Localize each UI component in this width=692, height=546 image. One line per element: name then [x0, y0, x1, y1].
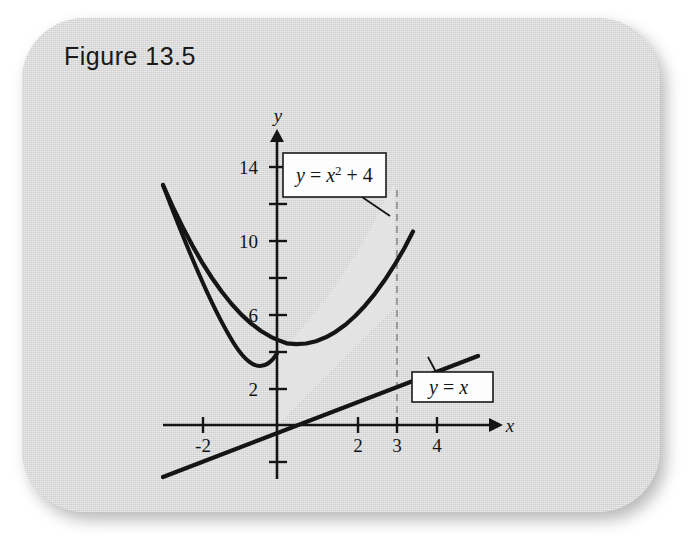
parabola-label-y: y: [294, 164, 305, 187]
y-tick-label-14: 14: [239, 157, 259, 178]
x-tick-label-3: 3: [392, 435, 402, 456]
figure-page: Figure 13.5: [0, 0, 692, 546]
parabola-curve: [163, 185, 277, 366]
line-label-box: y = x: [412, 372, 493, 402]
y-tick-label-10: 10: [239, 231, 258, 252]
x-axis-name: x: [505, 415, 515, 436]
parabola-label-eq: =: [305, 164, 326, 186]
y-axis-name: y: [272, 105, 283, 126]
x-tick-label--2: -2: [195, 435, 211, 456]
y-tick-label-2: 2: [249, 379, 259, 400]
parabola-label-box: y = x2 + 4: [283, 153, 386, 197]
x-tick-label-4: 4: [432, 435, 442, 456]
x-tick-label-2: 2: [353, 435, 363, 456]
y-axis: [270, 129, 284, 479]
parabola-label-x: x: [325, 164, 335, 186]
svg-text:y = x: y = x: [427, 376, 468, 399]
line-label-leader: [428, 357, 436, 372]
parabola-label-plus: + 4: [342, 164, 373, 186]
shaded-region-fill: [277, 183, 395, 425]
line-label-x: x: [458, 376, 468, 398]
graph-plot: -2 2 3 4 14 10 6 2 y x y = x2 + 4: [0, 0, 692, 546]
svg-text:y = x2 + 4: y = x2 + 4: [294, 163, 373, 187]
line-label-y: y: [427, 376, 438, 399]
line-label-eq: =: [438, 376, 459, 398]
x-axis: [163, 418, 503, 432]
